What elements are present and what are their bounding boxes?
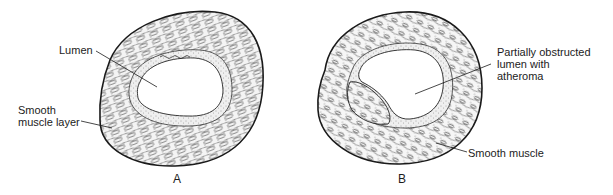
- lumen-label: Lumen: [59, 44, 93, 56]
- panel-letter-a: A: [173, 172, 181, 186]
- artery-a: [81, 11, 263, 166]
- obstructed-lumen-label: Partially obstructed lumen with atheroma: [497, 46, 591, 82]
- artery-cross-section-figure: Lumen Smooth muscle layer A Partially ob…: [0, 0, 613, 195]
- panel-letter-b: B: [398, 172, 406, 186]
- smooth-muscle-layer-label: Smooth muscle layer: [18, 104, 80, 128]
- smooth-muscle-label: Smooth muscle: [468, 147, 544, 159]
- artery-b: [318, 12, 491, 164]
- artery-illustrations: [0, 0, 613, 195]
